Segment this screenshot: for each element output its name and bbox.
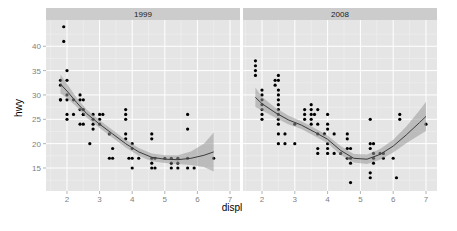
data-point xyxy=(124,132,127,135)
data-point xyxy=(153,166,156,169)
data-point xyxy=(277,132,280,135)
data-point xyxy=(111,157,114,160)
data-point xyxy=(313,113,316,116)
y-tick-label: 40 xyxy=(32,42,41,51)
data-point xyxy=(277,123,280,126)
data-point xyxy=(186,166,189,169)
data-point xyxy=(82,123,85,126)
data-point xyxy=(260,88,263,91)
data-point xyxy=(170,166,173,169)
data-point xyxy=(186,113,189,116)
facet-strip-label: 2008 xyxy=(331,10,349,19)
data-point xyxy=(150,166,153,169)
x-tick-label: 3 xyxy=(97,195,102,204)
data-point xyxy=(293,142,296,145)
y-tick-label: 15 xyxy=(32,164,41,173)
data-point xyxy=(186,127,189,130)
y-axis-title: hwy xyxy=(13,99,24,117)
data-point xyxy=(316,152,319,155)
x-tick-label: 5 xyxy=(163,195,168,204)
data-point xyxy=(303,118,306,121)
data-point xyxy=(72,113,75,116)
data-point xyxy=(283,142,286,145)
data-point xyxy=(372,142,375,145)
data-point xyxy=(395,176,398,179)
data-point xyxy=(310,113,313,116)
data-point xyxy=(62,25,65,28)
facet-strip-label: 1999 xyxy=(134,10,152,19)
data-point xyxy=(150,162,153,165)
plot-panels: 19992345672008234567152025303540 xyxy=(32,8,442,204)
data-point xyxy=(88,142,91,145)
data-point xyxy=(277,74,280,77)
x-tick-label: 6 xyxy=(195,195,200,204)
data-point xyxy=(283,132,286,135)
data-point xyxy=(316,108,319,111)
data-point xyxy=(150,137,153,140)
data-point xyxy=(254,69,257,72)
data-point xyxy=(369,142,372,145)
data-point xyxy=(392,157,395,160)
x-axis-title: displ xyxy=(222,202,243,213)
data-point xyxy=(326,147,329,150)
data-point xyxy=(124,113,127,116)
data-point xyxy=(254,74,257,77)
data-point xyxy=(124,118,127,121)
faceted-scatter-chart: 19992345672008234567152025303540 displ h… xyxy=(0,0,457,231)
data-point xyxy=(59,98,62,101)
data-point xyxy=(310,123,313,126)
data-point xyxy=(78,93,81,96)
data-point xyxy=(108,157,111,160)
data-point xyxy=(277,142,280,145)
data-point xyxy=(346,137,349,140)
data-point xyxy=(333,152,336,155)
data-point xyxy=(101,113,104,116)
x-tick-label: 4 xyxy=(325,195,330,204)
data-point xyxy=(91,127,94,130)
data-point xyxy=(310,118,313,121)
x-tick-label: 3 xyxy=(293,195,298,204)
data-point xyxy=(131,166,134,169)
data-point xyxy=(254,64,257,67)
x-tick-label: 5 xyxy=(358,195,363,204)
y-tick-label: 30 xyxy=(32,91,41,100)
data-point xyxy=(277,93,280,96)
facet-panel-2008: 2008234567 xyxy=(243,8,442,204)
data-point xyxy=(398,113,401,116)
data-point xyxy=(78,123,81,126)
x-tick-label: 4 xyxy=(130,195,135,204)
data-point xyxy=(326,123,329,126)
data-point xyxy=(137,157,140,160)
data-point xyxy=(316,147,319,150)
data-point xyxy=(277,103,280,106)
data-point xyxy=(369,171,372,174)
data-point xyxy=(369,147,372,150)
facet-panel-1999: 1999234567 xyxy=(46,8,246,204)
data-point xyxy=(254,59,257,62)
data-point xyxy=(326,152,329,155)
data-point xyxy=(349,181,352,184)
data-point xyxy=(176,166,179,169)
data-point xyxy=(303,113,306,116)
y-tick-label: 20 xyxy=(32,140,41,149)
data-point xyxy=(310,103,313,106)
data-point xyxy=(303,108,306,111)
y-tick-label: 25 xyxy=(32,115,41,124)
data-point xyxy=(274,79,277,82)
data-point xyxy=(346,132,349,135)
data-point xyxy=(326,113,329,116)
data-point xyxy=(316,123,319,126)
data-point xyxy=(82,98,85,101)
data-point xyxy=(260,118,263,121)
data-point xyxy=(124,108,127,111)
data-point xyxy=(260,113,263,116)
data-point xyxy=(131,157,134,160)
data-point xyxy=(310,108,313,111)
data-point xyxy=(349,162,352,165)
data-point xyxy=(369,118,372,121)
data-point xyxy=(65,118,68,121)
data-point xyxy=(349,147,352,150)
data-point xyxy=(277,88,280,91)
data-point xyxy=(193,166,196,169)
x-tick-label: 2 xyxy=(260,195,265,204)
